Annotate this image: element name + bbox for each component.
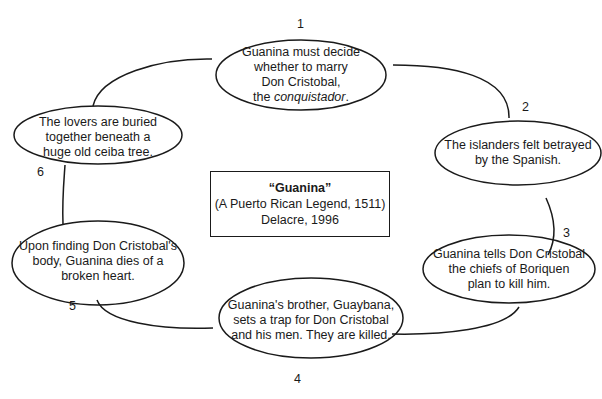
event-node-3: Guanina tells Don Cristobal the chiefs o…: [423, 235, 595, 303]
event-1-line-1: Guanina must decide: [242, 45, 360, 60]
event-number-1: 1: [297, 17, 304, 31]
event-node-5: Upon finding Don Cristobal's body, Guani…: [12, 230, 184, 292]
event-1-line-4-suffix: .: [345, 90, 348, 104]
story-title: “Guanina”: [269, 180, 332, 196]
event-number-2: 2: [522, 100, 529, 114]
event-6-line-2: together beneath a: [39, 130, 157, 145]
event-node-6: The lovers are buried together beneath a…: [14, 115, 182, 159]
story-author: Delacre, 1996: [261, 212, 339, 228]
event-4-line-1: Guanina's brother, Guaybana,: [228, 298, 394, 313]
center-title-box: “Guanina” (A Puerto Rican Legend, 1511) …: [210, 171, 390, 237]
event-number-5: 5: [69, 299, 76, 313]
event-2-line-1: The islanders felt betrayed: [444, 138, 591, 153]
connector-3-4: [392, 307, 519, 334]
event-6-line-3: huge old ceiba tree.: [39, 145, 157, 160]
event-1-italic-term: conquistador: [274, 90, 346, 104]
event-3-line-1: Guanina tells Don Cristobal: [433, 247, 585, 262]
event-1-line-4-prefix: the: [253, 90, 274, 104]
event-5-line-2: body, Guanina dies of a: [19, 254, 177, 269]
event-2-line-2: by the Spanish.: [444, 153, 591, 168]
story-subtitle: (A Puerto Rican Legend, 1511): [215, 196, 386, 212]
event-6-line-1: The lovers are buried: [39, 115, 157, 130]
event-number-6: 6: [37, 165, 44, 179]
event-number-4: 4: [294, 372, 301, 386]
event-5-line-3: broken heart.: [19, 269, 177, 284]
event-1-line-2: whether to marry: [242, 60, 360, 75]
event-node-2: The islanders felt betrayed by the Spani…: [435, 121, 601, 185]
event-1-line-4: the conquistador.: [242, 90, 360, 105]
event-node-4: Guanina's brother, Guaybana, sets a trap…: [219, 290, 403, 350]
event-3-line-2: the chiefs of Boriquen: [433, 262, 585, 277]
event-3-line-3: plan to kill him.: [433, 277, 585, 292]
event-5-line-1: Upon finding Don Cristobal's: [19, 239, 177, 254]
connector-6-1: [93, 59, 212, 106]
connector-1-2: [393, 65, 509, 118]
event-node-1: Guanina must decide whether to marry Don…: [216, 40, 386, 110]
event-4-line-3: and his men. They are killed.: [228, 328, 394, 343]
connector-5-6: [63, 165, 65, 224]
event-4-line-2: sets a trap for Don Cristobal: [228, 313, 394, 328]
event-1-line-3: Don Cristobal,: [242, 75, 360, 90]
